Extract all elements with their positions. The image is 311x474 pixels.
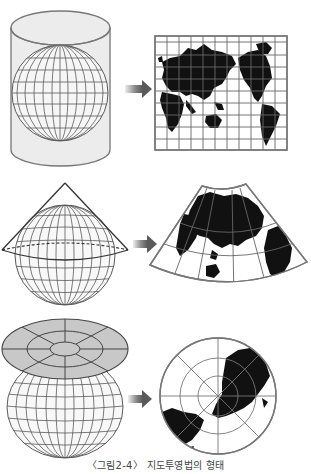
figure-caption: 〈그림2-4〉 지도투영법의 형태	[0, 459, 311, 473]
map-projection-figure: 〈그림2-4〉 지도투영법의 형태	[0, 0, 311, 474]
arrow-azimuthal	[128, 390, 152, 408]
map-cylindrical	[155, 36, 287, 150]
map-azimuthal	[160, 338, 276, 454]
arrow-conic	[133, 235, 157, 253]
projection-diagram	[0, 0, 311, 474]
plane-surface	[2, 319, 128, 379]
map-conic	[150, 184, 307, 300]
globe-conic	[10, 205, 120, 305]
arrow-cylindrical	[125, 80, 152, 98]
